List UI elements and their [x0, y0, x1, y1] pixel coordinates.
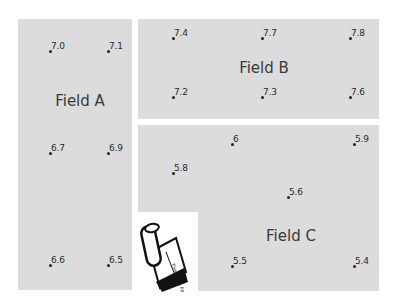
- point-value: 6.5: [109, 255, 123, 265]
- point-value: 7.2: [174, 87, 188, 97]
- point-value: 7.1: [109, 41, 123, 51]
- field-label: Field B: [239, 59, 289, 77]
- point-value: 6.9: [109, 143, 123, 153]
- point-value: 7.4: [174, 28, 188, 38]
- point-value: 6: [233, 134, 239, 144]
- point-value: 7.7: [263, 28, 277, 38]
- field-label: Field C: [266, 227, 316, 245]
- point-value: 7.8: [351, 28, 365, 38]
- field-a: [18, 19, 132, 290]
- point-value: 6.6: [51, 255, 65, 265]
- point-value: 5.8: [174, 163, 188, 173]
- notebook-hand-icon: The Math Forum: [138, 212, 198, 292]
- point-value: 7.6: [351, 87, 365, 97]
- point-value: 5.5: [233, 256, 247, 266]
- field-label: Field A: [55, 92, 105, 110]
- point-value: 5.4: [355, 256, 369, 266]
- point-value: 5.6: [289, 187, 303, 197]
- point-value: 6.7: [51, 143, 65, 153]
- point-value: 7.3: [263, 87, 277, 97]
- point-value: 5.9: [355, 134, 369, 144]
- point-value: 7.0: [51, 41, 65, 51]
- logo: The Math Forum: [138, 212, 198, 292]
